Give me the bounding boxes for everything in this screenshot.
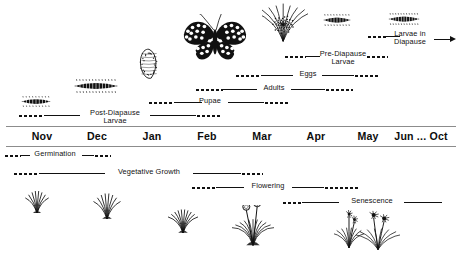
pupae-solid-segment bbox=[228, 102, 264, 103]
larvae-in-diapause-label-line2: Diapause bbox=[394, 38, 426, 46]
pupae-label: Pupae bbox=[199, 97, 221, 105]
post-diapause-larvae-solid-segment bbox=[150, 115, 196, 116]
month-label-jun: Jun ... Oct bbox=[394, 130, 447, 142]
small-larva-icon bbox=[322, 14, 352, 26]
eggs-dotted-segment bbox=[235, 75, 261, 77]
phenology-diagram: Larvae inDiapausePre-DiapauseLarvaeEggsA… bbox=[0, 0, 462, 257]
diapause-larva-icon bbox=[387, 13, 421, 25]
pre-diapause-larvae-label: Pre-DiapauseLarvae bbox=[320, 50, 366, 65]
eggs-solid-segment bbox=[261, 75, 293, 76]
senescence-solid-segment bbox=[302, 202, 339, 203]
germination-solid-segment bbox=[82, 155, 94, 156]
pre-diapause-larvae-dotted-segment bbox=[366, 56, 388, 58]
larvae-in-diapause-arrow-shaft bbox=[434, 39, 450, 40]
flowering-solid-segment bbox=[216, 187, 244, 188]
seedling-2-icon bbox=[92, 190, 122, 220]
vegetative-growth-solid-segment bbox=[39, 173, 105, 174]
pre-diapause-larvae-solid-segment bbox=[306, 56, 320, 57]
pupae-dotted-segment bbox=[148, 102, 174, 104]
month-label-feb: Feb bbox=[197, 130, 216, 142]
vegetative-growth-dotted-segment bbox=[241, 173, 263, 175]
larvae-in-diapause-dotted-segment bbox=[367, 36, 386, 38]
butterfly-icon bbox=[182, 14, 248, 62]
month-label-mar: Mar bbox=[252, 130, 271, 142]
month-label-dec: Dec bbox=[87, 130, 107, 142]
vegetative-growth-label: Vegetative Growth bbox=[118, 168, 180, 176]
pre-diapause-larvae-label-line2: Larvae bbox=[320, 58, 366, 66]
post-diapause-larvae-dotted-segment bbox=[18, 115, 44, 117]
adults-solid-segment bbox=[291, 89, 325, 90]
month-label-may: May bbox=[357, 130, 378, 142]
post-diapause-larva-small-icon bbox=[20, 96, 52, 107]
adults-dotted-segment bbox=[325, 89, 353, 91]
month-label-jan: Jan bbox=[143, 130, 162, 142]
pre-diapause-larvae-dotted-segment bbox=[284, 56, 306, 58]
post-diapause-larvae-dotted-segment bbox=[196, 115, 220, 117]
pupae-solid-segment bbox=[174, 102, 202, 103]
eggs-solid-segment bbox=[322, 75, 354, 76]
senescing-plant-2-icon bbox=[356, 210, 400, 252]
larva-on-host-plant-icon bbox=[262, 2, 308, 42]
post-diapause-larva-large-icon bbox=[72, 79, 120, 93]
flowering-solid-segment bbox=[292, 187, 324, 188]
month-label-apr: Apr bbox=[307, 130, 326, 142]
larvae-in-diapause-label: Larvae inDiapause bbox=[394, 30, 426, 45]
germination-dotted-segment bbox=[4, 155, 21, 157]
post-diapause-larvae-label-line2: Larvae bbox=[90, 117, 140, 125]
vegetative-growth-dotted-segment bbox=[13, 173, 39, 175]
seedling-1-icon bbox=[24, 188, 50, 214]
adults-solid-segment bbox=[223, 89, 257, 90]
senescence-dotted-segment bbox=[282, 202, 302, 204]
post-diapause-larvae-solid-segment bbox=[44, 115, 80, 116]
adults-label: Adults bbox=[263, 84, 284, 92]
pupae-dotted-segment bbox=[264, 102, 290, 104]
month-band-top-rule bbox=[6, 126, 456, 127]
senescence-label: Senescence bbox=[351, 197, 393, 205]
vegetative-growth-solid-segment bbox=[193, 173, 241, 174]
flowering-plant-icon bbox=[232, 205, 274, 249]
post-diapause-larvae-label: Post-DiapauseLarvae bbox=[90, 109, 140, 124]
larvae-in-diapause-arrow-head-icon bbox=[450, 36, 456, 42]
flowering-dotted-segment bbox=[324, 187, 359, 189]
germination-label: Germination bbox=[34, 150, 75, 158]
rosette-icon bbox=[168, 204, 198, 234]
pupa-icon bbox=[138, 48, 160, 80]
month-label-nov: Nov bbox=[32, 130, 53, 142]
adults-dotted-segment bbox=[195, 89, 223, 91]
germination-dotted-segment bbox=[94, 155, 111, 157]
eggs-dotted-segment bbox=[354, 75, 380, 77]
flowering-dotted-segment bbox=[191, 187, 216, 189]
eggs-label: Eggs bbox=[299, 70, 316, 78]
month-band-bottom-rule bbox=[6, 146, 456, 147]
germination-solid-segment bbox=[21, 155, 30, 156]
senescence-solid-segment bbox=[404, 202, 442, 203]
flowering-label: Flowering bbox=[252, 182, 285, 190]
